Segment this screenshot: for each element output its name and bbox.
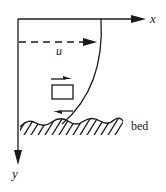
velocity-label: u bbox=[56, 45, 62, 57]
shear-arrow-right-icon bbox=[63, 76, 72, 79]
fluid-element bbox=[51, 76, 73, 114]
y-axis-arrowhead-icon bbox=[14, 150, 22, 165]
bed-hatching bbox=[14, 114, 128, 140]
velocity-profile-curve bbox=[62, 19, 101, 124]
flow-diagram bbox=[0, 0, 166, 192]
x-axis bbox=[18, 15, 146, 23]
x-axis-arrowhead-icon bbox=[131, 15, 146, 23]
element-square bbox=[52, 85, 73, 99]
velocity-arrowhead-icon bbox=[83, 38, 97, 46]
y-axis-label: y bbox=[12, 167, 18, 180]
shear-arrow-left-icon bbox=[53, 111, 62, 114]
x-axis-label: x bbox=[150, 12, 156, 25]
bed-surface bbox=[14, 114, 128, 140]
bed-label: bed bbox=[131, 120, 148, 132]
y-axis bbox=[14, 19, 22, 165]
